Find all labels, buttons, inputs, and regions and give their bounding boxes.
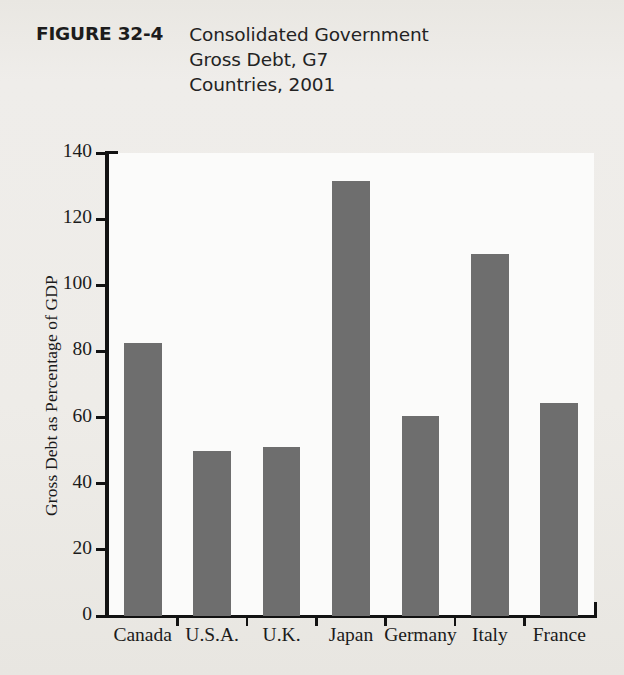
- y-axis-tick: [96, 218, 108, 221]
- x-axis-category-label: Italy: [472, 624, 508, 646]
- x-axis-category-label: U.S.A.: [185, 624, 239, 646]
- y-axis-tick: [96, 284, 108, 287]
- x-axis-category-label: Japan: [329, 624, 373, 646]
- bar: [124, 343, 162, 616]
- bar: [540, 403, 578, 616]
- bar: [332, 181, 370, 616]
- x-axis-category-label: U.K.: [263, 624, 301, 646]
- bar-series: [108, 153, 594, 616]
- x-axis-category-label: Canada: [113, 624, 171, 646]
- x-axis-category-labels: CanadaU.S.A.U.K.JapanGermanyItalyFrance: [108, 624, 594, 654]
- y-axis-tick: [96, 416, 108, 419]
- y-axis-tick: [96, 350, 108, 353]
- x-axis-category-label: Germany: [384, 624, 457, 646]
- y-axis-tick: [96, 152, 108, 155]
- bar: [402, 416, 440, 616]
- bar: [471, 254, 509, 616]
- bar: [263, 447, 301, 616]
- axis-corner-bottom-right: [594, 602, 598, 618]
- y-axis-tick: [96, 482, 108, 485]
- y-axis-title: Gross Debt as Percentage of GDP: [41, 226, 62, 566]
- x-axis-category-label: France: [533, 624, 586, 646]
- bar: [193, 451, 231, 616]
- bar-chart: 020406080100120140 Gross Debt as Percent…: [0, 0, 624, 675]
- y-axis-tick: [96, 615, 108, 618]
- y-axis-tick-label: 0: [0, 603, 92, 625]
- y-axis-tick: [96, 548, 108, 551]
- y-axis-tick-label: 140: [0, 140, 92, 162]
